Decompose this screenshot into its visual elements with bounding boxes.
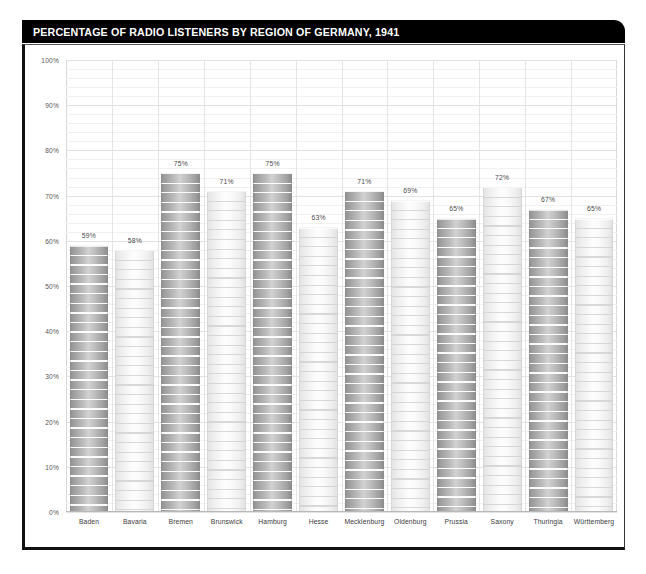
- x-axis-tick-label: Thuringia: [525, 518, 571, 525]
- x-axis-tick-label: Oldenburg: [387, 518, 433, 525]
- bar-value-label: 71%: [357, 178, 371, 185]
- y-axis-tick-label: 30%: [45, 373, 66, 380]
- bar-value-label: 72%: [495, 174, 509, 181]
- bar-value-label: 69%: [403, 187, 417, 194]
- y-axis-tick-label: 0%: [49, 509, 66, 516]
- bar[interactable]: [345, 191, 384, 512]
- bar-column: 71%: [207, 60, 246, 512]
- y-axis-tick-label: 40%: [45, 328, 66, 335]
- bar[interactable]: [253, 173, 292, 512]
- bar[interactable]: [391, 200, 430, 512]
- bar-column: 69%: [391, 60, 430, 512]
- plot-area: 0%10%20%30%40%50%60%70%80%90%100% 59%58%…: [66, 60, 617, 512]
- bar[interactable]: [299, 227, 338, 512]
- bar-value-label: 71%: [220, 178, 234, 185]
- bar-column: 65%: [437, 60, 476, 512]
- x-axis-tick-label: Brunswick: [204, 518, 250, 525]
- bar[interactable]: [483, 187, 522, 512]
- bar-top-highlight: [529, 209, 568, 210]
- bar-top-highlight: [115, 250, 154, 251]
- x-axis-tick-label: Prussia: [433, 518, 479, 525]
- title-band: PERCENTAGE OF RADIO LISTENERS BY REGION …: [22, 20, 625, 43]
- bar-column: 67%: [529, 60, 568, 512]
- bar-column: 75%: [161, 60, 200, 512]
- bar[interactable]: [437, 218, 476, 512]
- bar-value-label: 75%: [174, 160, 188, 167]
- bar-top-highlight: [207, 191, 246, 192]
- y-axis-tick-label: 80%: [45, 147, 66, 154]
- y-axis-tick-label: 70%: [45, 192, 66, 199]
- x-axis-labels: BadenBavariaBremenBrunswickHamburgHesseM…: [66, 514, 617, 534]
- bar-top-highlight: [70, 245, 109, 246]
- bar[interactable]: [575, 218, 614, 512]
- bar-column: 58%: [115, 60, 154, 512]
- bar-column: 72%: [483, 60, 522, 512]
- y-axis-tick-label: 60%: [45, 237, 66, 244]
- bar-value-label: 75%: [266, 160, 280, 167]
- bar[interactable]: [207, 191, 246, 512]
- gridline-major: [66, 512, 617, 513]
- bar-column: 75%: [253, 60, 292, 512]
- bar-value-label: 63%: [311, 214, 325, 221]
- bar-column: 59%: [70, 60, 109, 512]
- bar-column: 65%: [575, 60, 614, 512]
- bar-value-label: 67%: [541, 196, 555, 203]
- x-axis-tick-label: Saxony: [479, 518, 525, 525]
- bar-top-highlight: [575, 218, 614, 219]
- bar-top-highlight: [437, 218, 476, 219]
- y-axis-tick-label: 50%: [45, 283, 66, 290]
- bar-top-highlight: [345, 191, 384, 192]
- bar-value-label: 59%: [82, 232, 96, 239]
- x-axis-tick-label: Hamburg: [250, 518, 296, 525]
- bar-top-highlight: [391, 200, 430, 201]
- bar-top-highlight: [483, 187, 522, 188]
- x-axis-tick-label: Bremen: [158, 518, 204, 525]
- bar[interactable]: [529, 209, 568, 512]
- bar-value-label: 65%: [587, 205, 601, 212]
- x-axis-tick-label: Hesse: [296, 518, 342, 525]
- x-axis-tick-label: Bavaria: [112, 518, 158, 525]
- bar-top-highlight: [161, 173, 200, 174]
- bar-column: 63%: [299, 60, 338, 512]
- y-axis-tick-label: 20%: [45, 418, 66, 425]
- bar[interactable]: [70, 245, 109, 512]
- y-axis-tick-label: 10%: [45, 463, 66, 470]
- bar-top-highlight: [299, 227, 338, 228]
- x-axis-tick-label: Württemberg: [571, 518, 617, 525]
- bar[interactable]: [115, 250, 154, 512]
- axis-baseline: [66, 511, 617, 512]
- bar[interactable]: [161, 173, 200, 512]
- y-axis-tick-label: 90%: [45, 102, 66, 109]
- page-title: PERCENTAGE OF RADIO LISTENERS BY REGION …: [33, 26, 399, 38]
- x-axis-tick-label: Mecklenburg: [342, 518, 388, 525]
- y-axis-tick-label: 100%: [41, 57, 66, 64]
- bar-top-highlight: [253, 173, 292, 174]
- chart-page: PERCENTAGE OF RADIO LISTENERS BY REGION …: [0, 0, 646, 574]
- bar-value-label: 58%: [128, 237, 142, 244]
- x-axis-tick-label: Baden: [66, 518, 112, 525]
- bar-value-label: 65%: [449, 205, 463, 212]
- bar-column: 71%: [345, 60, 384, 512]
- bar-series: 59%58%75%71%75%63%71%69%65%72%67%65%: [66, 60, 617, 512]
